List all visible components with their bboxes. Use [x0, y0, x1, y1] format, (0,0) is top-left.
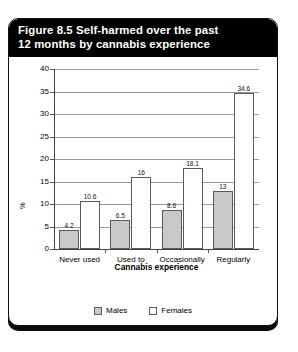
legend-swatch-males	[94, 307, 102, 315]
y-axis-tick-label: 25	[25, 133, 49, 141]
x-axis-title: Cannabis experience	[54, 262, 259, 272]
legend-swatch-females	[149, 307, 157, 315]
bar-value-label: 10.6	[76, 193, 104, 200]
bar-value-label: 18.1	[179, 160, 207, 167]
y-axis-tick-label: 0	[25, 245, 49, 253]
x-axis-tick-mark	[208, 249, 209, 253]
bar-males-never-used	[59, 230, 79, 249]
plot-region: 4.210.66.5168.618.11334.6 Never usedUsed…	[54, 69, 259, 249]
bar-males-used-to	[110, 220, 130, 249]
y-axis-tick-label: 30	[25, 110, 49, 118]
bar-value-label: 34.6	[230, 85, 258, 92]
legend-label: Females	[161, 307, 192, 315]
bar-value-label: 16	[127, 169, 155, 176]
legend-item-females: Females	[149, 307, 192, 315]
y-axis-tick-label: 35	[25, 88, 49, 96]
y-axis-tick-label: 10	[25, 200, 49, 208]
bar-value-label: 13	[209, 183, 237, 190]
figure-title-line-2: 12 months by cannabis experience	[18, 38, 268, 52]
bar-females-used-to	[131, 177, 151, 249]
bar-value-label: 4.2	[55, 222, 83, 229]
chart-legend: MalesFemales	[9, 307, 277, 315]
legend-item-males: Males	[94, 307, 127, 315]
figure-title-line-1: Figure 8.5 Self-harmed over the past	[18, 24, 268, 38]
bar-females-occasionally	[183, 168, 203, 249]
figure-panel: Figure 8.5 Self-harmed over the past 12 …	[8, 18, 278, 326]
bar-value-label: 8.6	[158, 202, 186, 209]
gridline	[54, 114, 259, 115]
bar-males-regularly	[213, 191, 233, 250]
gridline	[54, 137, 259, 138]
y-axis-tick-label: 40	[25, 65, 49, 73]
bar-males-occasionally	[162, 210, 182, 249]
chart-area: % 0510152025303540 4.210.66.5168.618.113…	[9, 57, 277, 302]
y-axis-tick-label: 20	[25, 155, 49, 163]
gridline	[54, 92, 259, 93]
gridline	[54, 159, 259, 160]
gridline	[54, 69, 259, 70]
x-axis-tick-mark	[157, 249, 158, 253]
y-axis-tick-label: 15	[25, 178, 49, 186]
figure-title-bar: Figure 8.5 Self-harmed over the past 12 …	[9, 19, 277, 57]
x-axis-tick-mark	[105, 249, 106, 253]
bar-value-label: 6.5	[106, 212, 134, 219]
bar-females-never-used	[80, 201, 100, 249]
legend-label: Males	[106, 307, 127, 315]
bar-females-regularly	[234, 93, 254, 249]
y-axis-tick-label: 5	[25, 223, 49, 231]
